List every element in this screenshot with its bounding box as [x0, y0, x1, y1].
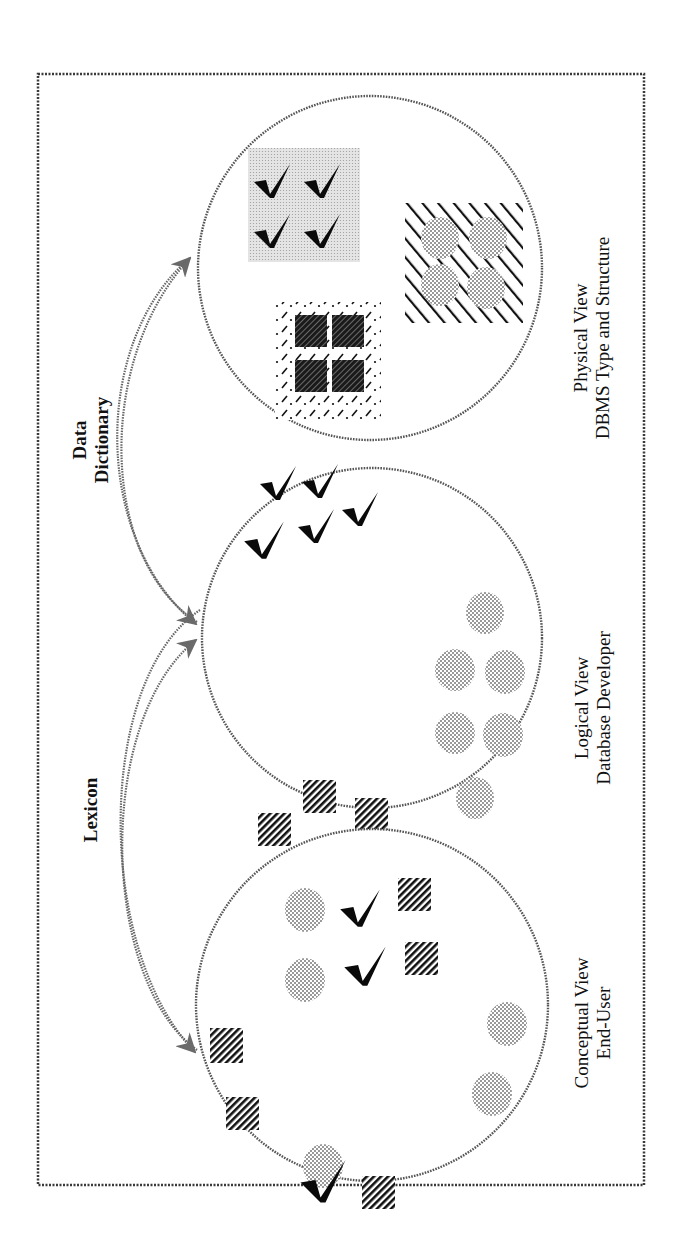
dotted-circle-icon — [466, 592, 504, 634]
dotted-circle-icon — [483, 713, 523, 757]
dotted-circle-icon — [435, 712, 475, 754]
data-dictionary-curve-to-logical — [120, 258, 197, 622]
lexicon-label: Lexicon — [80, 777, 101, 842]
hatched-square-icon — [405, 942, 438, 975]
physical-square-storage-block — [275, 302, 381, 420]
physical-view — [198, 96, 542, 440]
dotted-circle-icon — [421, 264, 459, 306]
data-dictionary-curve-to-physical — [121, 258, 197, 622]
lexicon-curve-to-logical — [122, 640, 197, 1050]
hatched-square-icon — [258, 813, 291, 846]
physical-view-title: Physical View — [570, 283, 591, 392]
physical-check-storage-block — [248, 148, 360, 262]
dotted-circle-icon — [472, 1072, 512, 1116]
data-dictionary-label-line1: Data — [69, 420, 90, 460]
dotted-circle-icon — [485, 650, 525, 694]
dotted-circle-icon — [285, 958, 325, 1002]
data-dictionary-curve-from-logical — [117, 258, 196, 624]
hatched-square-icon — [355, 798, 388, 831]
conceptual-view-subtitle: End-User — [593, 986, 614, 1059]
logical-view-circle — [202, 468, 542, 808]
hatched-square-icon — [303, 780, 336, 813]
dotted-circle-icon — [487, 1002, 527, 1046]
hatched-square-icon — [226, 1097, 259, 1130]
dotted-circle-icon — [467, 267, 505, 309]
lexicon-connector — [121, 610, 200, 1052]
hatched-square-icon — [210, 1028, 243, 1063]
hatched-square-icon — [362, 1176, 395, 1209]
hatched-square-icon — [332, 315, 364, 347]
logical-view-title: Logical View — [571, 656, 592, 759]
dotted-circle-icon — [456, 777, 494, 819]
hatched-square-icon — [398, 878, 431, 911]
dotted-circle-icon — [421, 217, 459, 259]
data-dictionary-connector — [120, 258, 197, 622]
physical-circle-storage-block — [405, 203, 523, 323]
dotted-circle-icon — [469, 217, 507, 259]
logical-view-subtitle: Database Developer — [593, 631, 614, 785]
dotted-circle-icon — [285, 888, 325, 932]
lexicon-curve-to-conceptual — [121, 610, 200, 1052]
conceptual-view — [196, 829, 548, 1209]
data-dictionary-label-line2: Dictionary — [91, 396, 112, 483]
dotted-circle-icon — [435, 649, 475, 691]
physical-view-subtitle: DBMS Type and Structure — [592, 237, 613, 440]
three-schema-diagram: Data Dictionary Lexicon Physical View DB… — [0, 0, 677, 1242]
conceptual-view-title: Conceptual View — [571, 957, 592, 1088]
hatched-square-icon — [295, 360, 327, 392]
hatched-square-icon — [332, 360, 364, 392]
hatched-square-icon — [295, 315, 327, 347]
